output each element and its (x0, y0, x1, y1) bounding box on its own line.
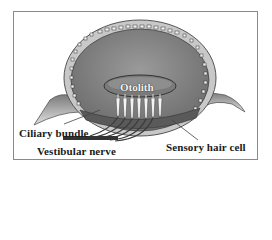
ciliary-bundle-label: Ciliary bundle (19, 128, 89, 139)
sensory-hair-cell-label: Sensory hair cell (166, 142, 246, 153)
otolith-label: Otolith (120, 82, 154, 93)
vestibular-nerve-label: Vestibular nerve (37, 146, 116, 157)
